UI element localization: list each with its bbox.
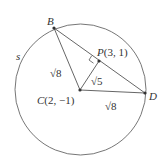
- label-cd-length: √8: [105, 100, 117, 112]
- point-c: [78, 88, 81, 91]
- point-p: [97, 59, 100, 62]
- label-cp-length: √5: [91, 75, 103, 87]
- point-d: [143, 91, 146, 94]
- label-c-coords: (2, −1): [44, 94, 74, 107]
- label-circle-s: s: [16, 50, 20, 62]
- label-c: C(2, −1): [37, 94, 75, 107]
- right-angle-marker: [89, 56, 94, 63]
- label-b: B: [47, 15, 54, 27]
- label-p-coords: (3, 1): [104, 46, 128, 59]
- label-cb-length: √8: [50, 67, 62, 79]
- label-d: D: [148, 90, 157, 102]
- label-p: P(3, 1): [96, 46, 128, 59]
- circle-chord-diagram: B s P(3, 1) C(2, −1) D √8 √5 √8: [0, 0, 166, 164]
- segment-cd: [80, 90, 145, 93]
